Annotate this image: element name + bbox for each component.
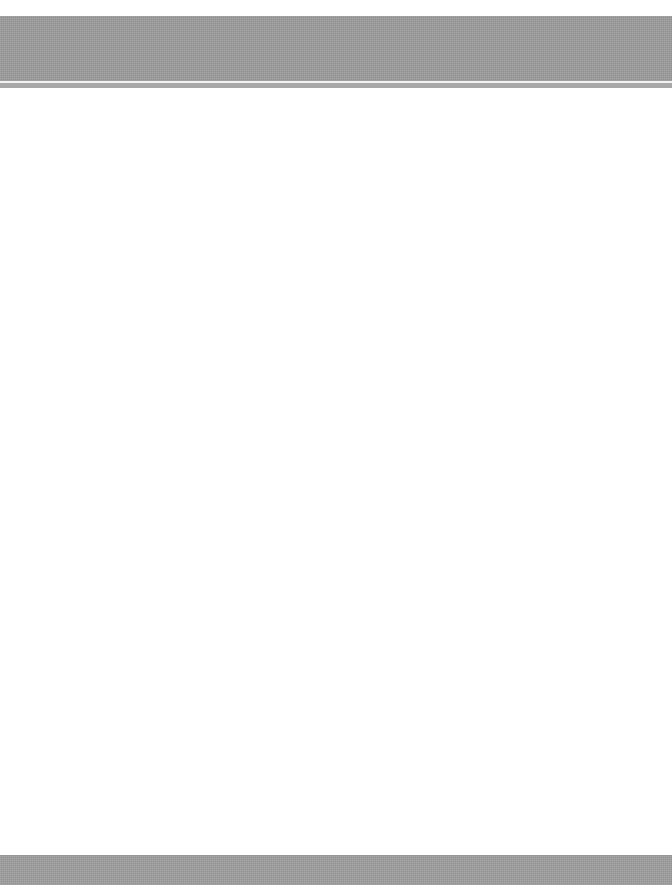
blank-document-page <box>0 0 672 885</box>
header-band <box>0 16 672 81</box>
footer-band <box>0 855 672 885</box>
page-body <box>0 88 672 855</box>
